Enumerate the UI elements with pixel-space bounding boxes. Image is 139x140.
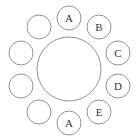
seat-label: A [65, 12, 73, 24]
seat-label: A [65, 117, 73, 129]
seat-label: D [114, 80, 122, 92]
seat-5: A [57, 111, 81, 135]
seating-diagram: A B C D E A [0, 0, 139, 140]
seat-9 [27, 15, 51, 39]
seat-2: C [106, 41, 130, 65]
seat-0: A [57, 6, 81, 30]
seat-8 [9, 41, 33, 65]
seat-label: C [114, 47, 121, 59]
seat-label: E [96, 106, 103, 118]
table-circle [37, 37, 101, 101]
seat-label: B [95, 21, 102, 33]
seat-1: B [87, 15, 111, 39]
seat-6 [27, 100, 51, 124]
seat-7 [9, 74, 33, 98]
seat-4: E [87, 100, 111, 124]
seat-3: D [106, 74, 130, 98]
